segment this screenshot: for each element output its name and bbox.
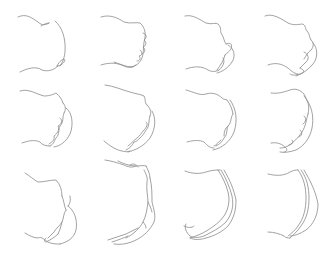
contour-line [49,118,62,144]
contour-line [63,103,65,113]
contour-line [190,170,236,240]
contour-line [114,62,132,67]
contour-line [68,196,70,206]
contour-line [268,64,298,74]
contour-line [54,108,72,147]
contour-line [143,222,146,228]
contour-line [20,66,58,72]
contour-line [186,67,218,72]
contour-panel-r2c1 [20,90,72,147]
contour-panel-r1c1 [18,16,65,72]
contour-panel-r3c4 [268,170,318,238]
contour-line [186,90,227,100]
contour-line [114,178,155,244]
contour-line [185,16,226,44]
contour-line [280,114,308,148]
contour-line [290,170,309,238]
contour-line [50,113,64,146]
contour-drawing-grid [0,0,333,254]
contour-line [105,85,147,105]
contour-line [227,100,233,114]
contour-line [213,100,236,150]
contour-figure [0,0,333,254]
contour-panel-r1c3 [185,16,234,73]
contour-line [304,40,313,59]
contour-panel-r1c4 [265,15,317,76]
contour-line [217,45,234,73]
contour-line [290,170,318,236]
contour-line [280,102,313,152]
contour-line [105,160,136,167]
contour-line [57,59,65,66]
contour-line [147,105,151,116]
contour-line [112,236,128,242]
contour-line [296,43,317,76]
contour-line [18,16,49,25]
contour-line [62,196,66,210]
contour-line [20,90,63,103]
contour-panel-r3c3 [184,170,236,240]
contour-line [268,170,298,175]
contour-line [25,233,60,244]
contour-line [190,170,229,238]
contour-panel-r1c2 [101,16,146,67]
contour-line [185,170,220,173]
contour-line [265,15,311,40]
contour-line [60,206,77,244]
contour-panel-r2c2 [104,85,155,167]
contour-line [22,141,50,146]
contour-line [216,114,233,146]
contour-line [101,16,145,67]
contour-line [118,161,146,166]
contour-panel-r3c2 [108,161,155,244]
contour-line [300,52,308,68]
contour-line [268,232,290,238]
contour-panel-r3c1 [25,173,77,244]
contour-line [185,224,190,236]
contour-line [128,122,147,146]
contour-line [148,202,152,212]
contour-panel-r2c4 [271,89,313,152]
contour-line [126,170,148,238]
contour-line [271,89,308,102]
contour-line [288,170,306,236]
contour-line [128,111,155,152]
contour-panel-r2c3 [186,90,236,150]
contour-line [25,173,62,196]
contour-line [187,141,214,149]
contour-line [304,96,309,114]
